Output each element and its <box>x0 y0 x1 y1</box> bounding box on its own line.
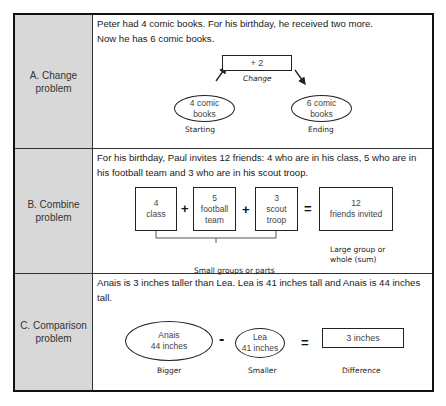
bigger-oval: Anais 44 inches <box>125 321 213 361</box>
change-caption: Change <box>243 74 272 84</box>
problem-text: Anais is 3 inches taller than Lea. Lea i… <box>97 276 426 305</box>
difference-box: 3 inches <box>322 328 404 348</box>
minus-sign: - <box>219 332 224 345</box>
end-oval-line1: 6 comic <box>307 98 336 109</box>
row-label-comparison: C. Comparison problem <box>15 274 93 390</box>
problem-text-line2: tall. <box>97 291 426 306</box>
smaller-oval-line2: 41 inches <box>242 343 278 354</box>
start-oval-line1: 4 comic <box>190 98 219 109</box>
start-oval-line2: books <box>190 109 219 120</box>
arrow-change-to-end <box>295 70 305 84</box>
end-oval-line2: books <box>307 109 336 120</box>
bigger-caption: Bigger <box>157 366 181 376</box>
equals-sign: = <box>301 336 309 349</box>
start-oval: 4 comic books <box>174 95 235 122</box>
whole-caption: Large group or whole (sum) <box>330 245 385 265</box>
row-content-combine: For his birthday, Paul invites 12 friend… <box>93 149 432 273</box>
smaller-oval-line1: Lea <box>242 332 278 343</box>
whole-caption-line1: Large group or <box>330 245 385 255</box>
difference-caption: Difference <box>342 366 381 376</box>
problem-types-table: A. Change problem Peter had 4 comic book… <box>13 13 434 392</box>
problem-text-line1: Anais is 3 inches taller than Lea. Lea i… <box>97 276 426 291</box>
bigger-oval-line2: 44 inches <box>151 341 187 352</box>
row-content-comparison: Anais is 3 inches taller than Lea. Lea i… <box>93 274 432 390</box>
row-label-line1: A. Change <box>30 69 77 82</box>
end-caption: Ending <box>308 125 334 135</box>
row-label-line2: problem <box>20 332 87 345</box>
row-content-change: Peter had 4 comic books. For his birthda… <box>93 15 432 148</box>
smaller-caption: Smaller <box>248 366 277 376</box>
smaller-oval: Lea 41 inches <box>235 328 285 358</box>
row-label-line1: C. Comparison <box>20 319 87 332</box>
change-box: + 2 <box>222 55 292 71</box>
row-change-problem: A. Change problem Peter had 4 comic book… <box>15 15 432 148</box>
row-comparison-problem: C. Comparison problem Anais is 3 inches … <box>15 273 432 390</box>
bigger-oval-line1: Anais <box>151 330 187 341</box>
row-label-line2: problem <box>27 211 79 224</box>
row-label-change: A. Change problem <box>15 15 93 148</box>
whole-caption-line2: whole (sum) <box>330 255 385 265</box>
row-combine-problem: B. Combine problem For his birthday, Pau… <box>15 148 432 273</box>
row-label-line2: problem <box>30 82 77 95</box>
start-caption: Starting <box>185 125 215 135</box>
row-label-combine: B. Combine problem <box>15 149 93 273</box>
end-oval: 6 comic books <box>291 95 352 122</box>
row-label-line1: B. Combine <box>27 198 79 211</box>
